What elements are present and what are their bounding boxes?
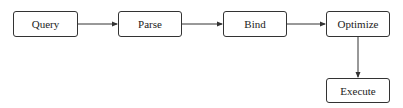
- node-bind: Bind: [223, 11, 287, 37]
- node-parse: Parse: [118, 11, 182, 37]
- node-query-label: Query: [32, 18, 60, 30]
- node-parse-label: Parse: [138, 18, 162, 30]
- node-optimize: Optimize: [326, 11, 390, 37]
- node-optimize-label: Optimize: [338, 18, 379, 30]
- node-execute: Execute: [326, 78, 390, 103]
- node-bind-label: Bind: [244, 18, 265, 30]
- node-execute-label: Execute: [340, 85, 375, 97]
- node-query: Query: [13, 11, 78, 37]
